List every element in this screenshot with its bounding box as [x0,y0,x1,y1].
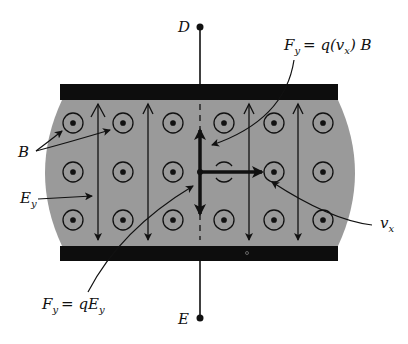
charge-particle [197,169,203,175]
b-field-label: B [17,143,29,161]
magnetic-force-equation: Fy= q(vx) B [283,36,372,56]
ey-label: Ey [19,189,37,209]
terminal-d-label: D [177,18,190,36]
electric-force-equation: Fy= qEy [41,295,105,315]
bottom-plate [60,246,338,261]
terminal-d-dot[interactable] [197,24,204,31]
terminal-e-dot[interactable] [197,315,204,322]
top-plate [60,84,338,100]
vx-label: vx [380,214,394,234]
terminal-e-label: E [177,310,189,328]
hall-effect-diagram: D E B Ey vx Fy= q(vx) B Fy= qEy [0,0,408,344]
